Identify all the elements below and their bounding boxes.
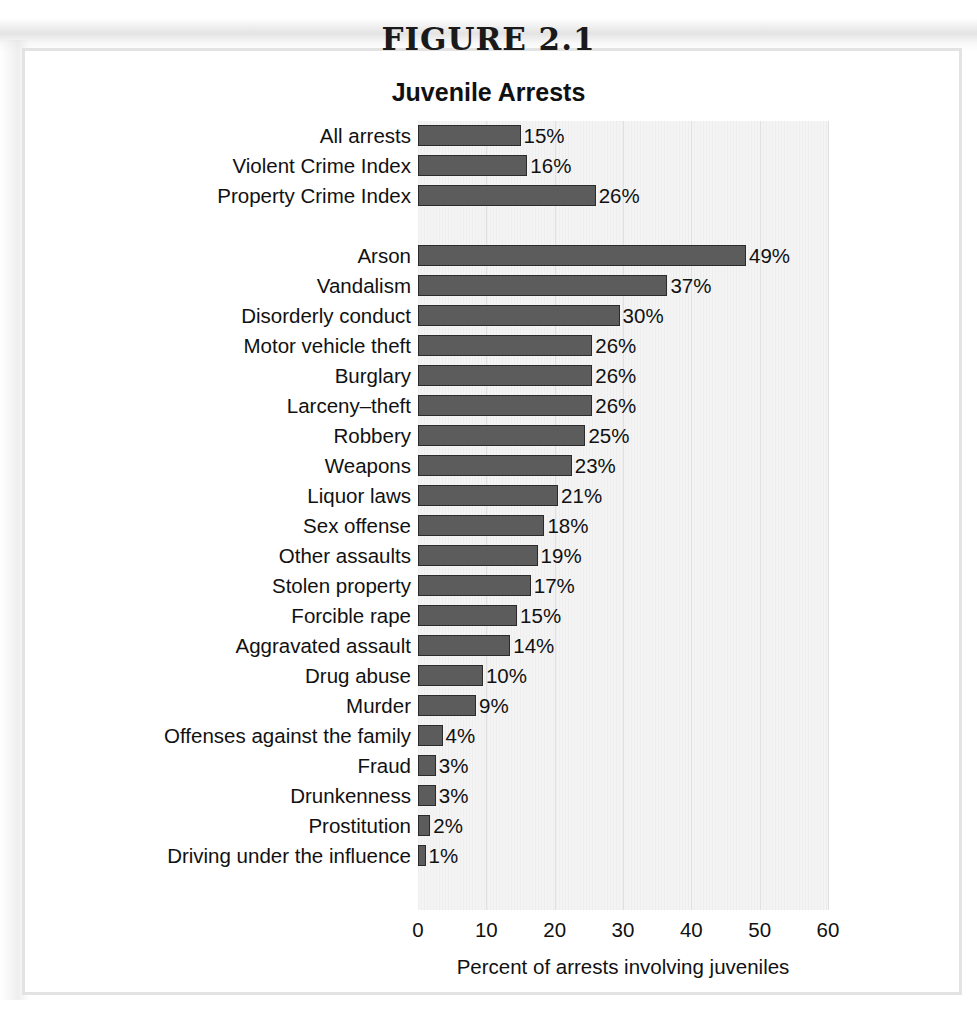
- x-axis-title: Percent of arrests involving juveniles: [418, 955, 828, 979]
- bar: [418, 305, 620, 326]
- x-tick-10: 10: [466, 918, 506, 942]
- bar-row-label: Disorderly conduct: [241, 301, 411, 331]
- bar-row-label: Motor vehicle theft: [244, 331, 412, 361]
- plot-area: All arrests15%Violent Crime Index16%Prop…: [418, 121, 828, 910]
- bar: [418, 845, 426, 866]
- x-tick-50: 50: [740, 918, 780, 942]
- x-tick-60: 60: [808, 918, 848, 942]
- x-tick-40: 40: [671, 918, 711, 942]
- bar: [418, 365, 592, 386]
- bar-value-label: 37%: [670, 271, 711, 301]
- x-tick-20: 20: [535, 918, 575, 942]
- bar-value-label: 26%: [599, 181, 640, 211]
- bar: [418, 635, 510, 656]
- bar-row-label: Property Crime Index: [217, 181, 411, 211]
- bar: [418, 725, 443, 746]
- bar: [418, 695, 476, 716]
- bar: [418, 665, 483, 686]
- bar-value-label: 14%: [513, 631, 554, 661]
- bar: [418, 455, 572, 476]
- bar: [418, 275, 667, 296]
- bar-row-label: Violent Crime Index: [232, 151, 411, 181]
- bar-value-label: 15%: [524, 121, 565, 151]
- gridline-30: [623, 121, 624, 910]
- bar-value-label: 3%: [439, 781, 469, 811]
- bar-row-label: Drunkenness: [290, 781, 411, 811]
- bar-value-label: 18%: [547, 511, 588, 541]
- bar: [418, 485, 558, 506]
- bar-value-label: 25%: [588, 421, 629, 451]
- bar-row-label: Robbery: [334, 421, 412, 451]
- bar-value-label: 16%: [530, 151, 571, 181]
- chart-plot-wrapper: All arrests15%Violent Crime Index16%Prop…: [0, 0, 977, 1020]
- bar-row-label: Stolen property: [272, 571, 411, 601]
- bar-value-label: 19%: [541, 541, 582, 571]
- bar: [418, 755, 436, 776]
- bar-row-label: Other assaults: [279, 541, 411, 571]
- bar-row-label: Weapons: [325, 451, 411, 481]
- bar-value-label: 49%: [749, 241, 790, 271]
- bar-row-label: Arson: [357, 241, 411, 271]
- bar-value-label: 9%: [479, 691, 509, 721]
- bar-value-label: 4%: [446, 721, 476, 751]
- bar-row-label: Fraud: [357, 751, 411, 781]
- bar-value-label: 26%: [595, 361, 636, 391]
- bar-row-label: Drug abuse: [305, 661, 411, 691]
- bar-value-label: 23%: [575, 451, 616, 481]
- bar-row-label: Prostitution: [308, 811, 411, 841]
- bar: [418, 125, 521, 146]
- bar: [418, 815, 430, 836]
- bar-value-label: 30%: [623, 301, 664, 331]
- bar-row-label: Liquor laws: [307, 481, 411, 511]
- bar-value-label: 21%: [561, 481, 602, 511]
- bar-row-label: Larceny–theft: [287, 391, 411, 421]
- bar-value-label: 3%: [439, 751, 469, 781]
- bar-row-label: All arrests: [320, 121, 411, 151]
- bar-value-label: 1%: [429, 841, 459, 871]
- bar: [418, 245, 746, 266]
- bar-row-label: Sex offense: [303, 511, 411, 541]
- bar: [418, 605, 517, 626]
- bar: [418, 785, 436, 806]
- bar-value-label: 15%: [520, 601, 561, 631]
- bar: [418, 395, 592, 416]
- bar-value-label: 26%: [595, 391, 636, 421]
- bar-value-label: 2%: [433, 811, 463, 841]
- bar-row-label: Forcible rape: [291, 601, 411, 631]
- x-tick-30: 30: [603, 918, 643, 942]
- gridline-60: [828, 121, 829, 910]
- bar-row-label: Offenses against the family: [164, 721, 411, 751]
- bar-row-label: Aggravated assault: [235, 631, 411, 661]
- bar: [418, 575, 531, 596]
- bar: [418, 425, 585, 446]
- bar: [418, 545, 538, 566]
- bar: [418, 155, 527, 176]
- bar-row-label: Vandalism: [317, 271, 411, 301]
- bar-row-label: Murder: [346, 691, 411, 721]
- bar-value-label: 26%: [595, 331, 636, 361]
- bar-row-label: Driving under the influence: [167, 841, 411, 871]
- bar: [418, 515, 544, 536]
- bar-row-label: Burglary: [335, 361, 411, 391]
- gridline-40: [691, 121, 692, 910]
- bar: [418, 335, 592, 356]
- bar: [418, 185, 596, 206]
- x-tick-0: 0: [398, 918, 438, 942]
- gridline-50: [760, 121, 761, 910]
- bar-value-label: 17%: [534, 571, 575, 601]
- bar-value-label: 10%: [486, 661, 527, 691]
